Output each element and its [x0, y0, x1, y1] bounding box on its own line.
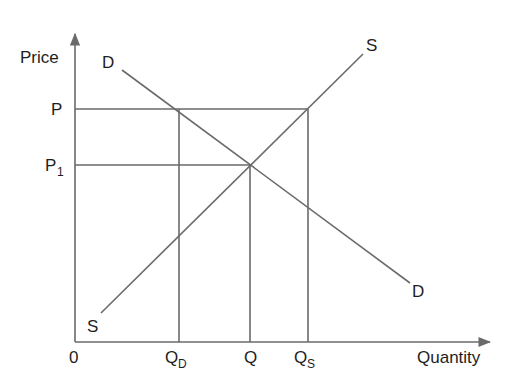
demand-curve [122, 70, 410, 283]
demand-label-bottom: D [412, 282, 424, 301]
price-p1-subscript: 1 [57, 165, 64, 179]
quantity-qd-label: Q D [165, 348, 187, 371]
origin-label: 0 [69, 348, 78, 367]
quantity-q-label: Q [244, 348, 257, 367]
supply-label-bottom: S [87, 317, 98, 336]
supply-demand-diagram: Price Quantity 0 S S D D P P 1 Q D Q Q S [0, 0, 527, 391]
y-axis-label: Price [20, 48, 59, 67]
x-axis-label: Quantity [417, 348, 481, 367]
price-p1-main: P [45, 156, 56, 175]
quantity-qd-subscript: D [178, 357, 187, 371]
supply-curve [101, 54, 363, 313]
quantity-qs-subscript: S [307, 357, 315, 371]
quantity-qd-main: Q [165, 348, 178, 367]
quantity-qs-label: Q S [294, 348, 315, 371]
price-p1-label: P 1 [45, 156, 64, 179]
price-p-label: P [51, 100, 62, 119]
demand-label-top: D [102, 53, 114, 72]
quantity-qs-main: Q [294, 348, 307, 367]
supply-label-top: S [366, 36, 377, 55]
